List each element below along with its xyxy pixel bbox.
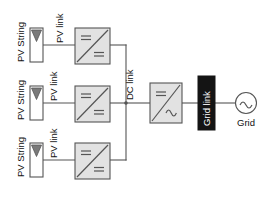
pv-string-label-1: PV String [15, 22, 26, 62]
dc-ac-inverter-group[interactable] [150, 83, 182, 123]
pv-string-1-group: PV String PV link [15, 13, 65, 62]
pv-system-diagram: PV String PV link PV String PV link [0, 0, 274, 197]
pv-link-label-1: PV link [54, 13, 65, 43]
grid-group[interactable]: Grid [236, 93, 257, 129]
pv-string-2-group: PV String PV link [15, 71, 59, 120]
dc-dc-converter-1-group[interactable] [75, 28, 110, 64]
grid-link-group[interactable]: Grid link [198, 76, 215, 130]
dc-link-label: DC link [124, 69, 135, 100]
pv-string-3-group: PV String PV link [15, 128, 59, 177]
pv-link-label-2: PV link [48, 71, 59, 101]
dc-dc-converter-2-group[interactable] [75, 86, 110, 122]
grid-source-circle[interactable] [236, 93, 257, 114]
pv-string-label-2: PV String [15, 80, 26, 120]
grid-link-label: Grid link [201, 91, 212, 126]
grid-label: Grid [237, 117, 255, 128]
pv-link-label-3: PV link [48, 128, 59, 158]
diagram-canvas: PV String PV link PV String PV link [0, 0, 274, 197]
pv-string-label-3: PV String [15, 137, 26, 177]
dc-dc-converter-3-group[interactable] [75, 143, 110, 179]
